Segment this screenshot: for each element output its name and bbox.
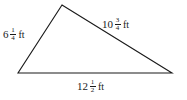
side-right-numerator: 3 [115,17,121,24]
side-left-fraction: 1 4 [10,27,16,42]
side-right-unit: ft [123,20,129,30]
triangle-outline [18,5,172,73]
side-label-bottom: 12 1 2 ft [77,79,104,94]
side-label-right: 10 3 4 ft [102,17,129,32]
side-bottom-numerator: 1 [90,79,96,86]
side-left-denominator: 4 [10,35,16,42]
side-right-denominator: 4 [115,25,121,32]
side-left-unit: ft [19,30,25,40]
side-bottom-unit: ft [98,82,104,92]
side-label-left: 6 1 4 ft [3,27,25,42]
side-bottom-denominator: 2 [90,87,96,94]
side-left-whole: 6 [3,29,9,40]
side-right-whole: 10 [102,19,113,30]
side-bottom-whole: 12 [77,81,88,92]
side-right-fraction: 3 4 [115,17,121,32]
triangle-figure: 6 1 4 ft 10 3 4 ft 12 1 2 ft [0,0,187,100]
side-bottom-fraction: 1 2 [90,79,96,94]
side-left-numerator: 1 [10,27,16,34]
